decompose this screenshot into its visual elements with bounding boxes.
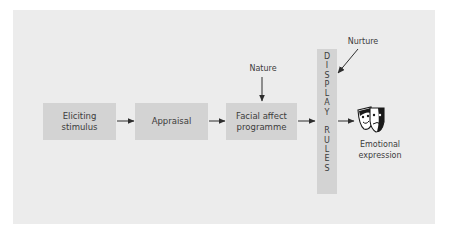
diagram-arrows	[0, 0, 454, 230]
arrow-nurture-to-display-rules	[338, 49, 358, 73]
theatre-masks-icon	[358, 107, 384, 132]
